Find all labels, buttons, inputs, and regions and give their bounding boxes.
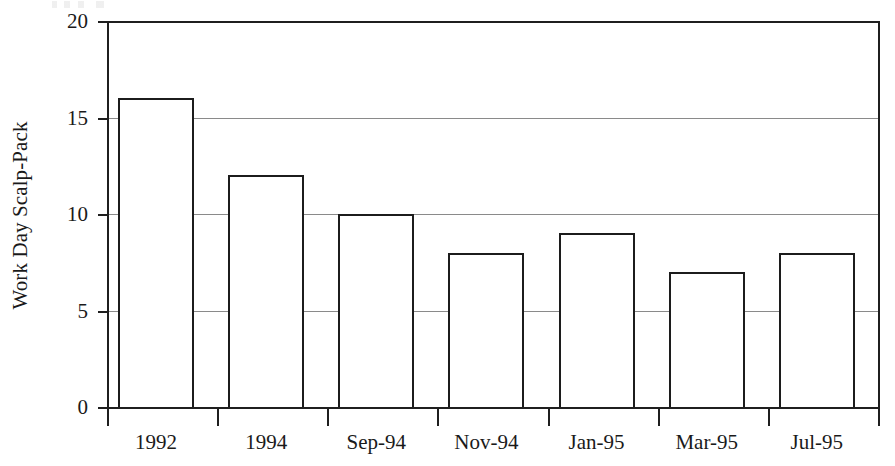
y-axis-tick-labels: 05101520 [34,0,88,466]
y-axis-tick-label: 10 [34,204,88,225]
x-axis-tick-label: Jul-95 [791,430,844,455]
plot-frame-top [107,21,878,23]
y-axis-title-label: Work Day Scalp-Pack [8,121,33,309]
bar [228,175,304,407]
y-axis-tick-label: 5 [34,300,88,321]
x-axis-tick-label: Jan-95 [569,430,625,455]
x-axis-tick-label: 1992 [135,430,177,455]
y-axis-tick-label: 0 [34,397,88,418]
y-axis-tick-mark [98,118,107,120]
y-axis-tick-mark [98,311,107,313]
bar [559,233,635,407]
bars-layer [107,21,878,407]
x-axis-tick-mark [217,407,219,426]
x-axis-tick-mark [437,407,439,426]
y-axis-tick-mark [98,21,107,23]
x-axis-tick-mark [768,407,770,426]
x-axis-tick-labels: 19921994Sep-94Nov-94Jan-95Mar-95Jul-95 [107,430,878,462]
plot-frame-right [878,21,880,407]
y-axis-tick-mark [98,407,107,409]
y-axis-tick-label: 20 [34,11,88,32]
x-axis-tick-mark [658,407,660,426]
bar [448,253,524,407]
x-axis-tick-label: Nov-94 [454,430,518,455]
x-axis-tick-mark [548,407,550,426]
x-axis-tick-mark [878,407,880,426]
y-axis-tick-label: 15 [34,107,88,128]
bar [118,98,194,407]
x-axis-tick-mark [107,407,109,426]
bar [779,253,855,407]
x-axis-tick-mark [327,407,329,426]
bar [669,272,745,407]
y-axis-tick-mark [98,214,107,216]
x-axis-tick-label: Mar-95 [675,430,738,455]
x-axis-tick-label: Sep-94 [347,430,407,455]
bar [338,214,414,407]
x-axis-tick-label: 1994 [245,430,287,455]
bar-chart: Work Day Scalp-Pack 05101520 19921994Sep… [0,0,895,466]
plot-area [107,21,878,407]
plot-frame-left [107,21,109,407]
x-axis-tick-marks [107,407,878,431]
